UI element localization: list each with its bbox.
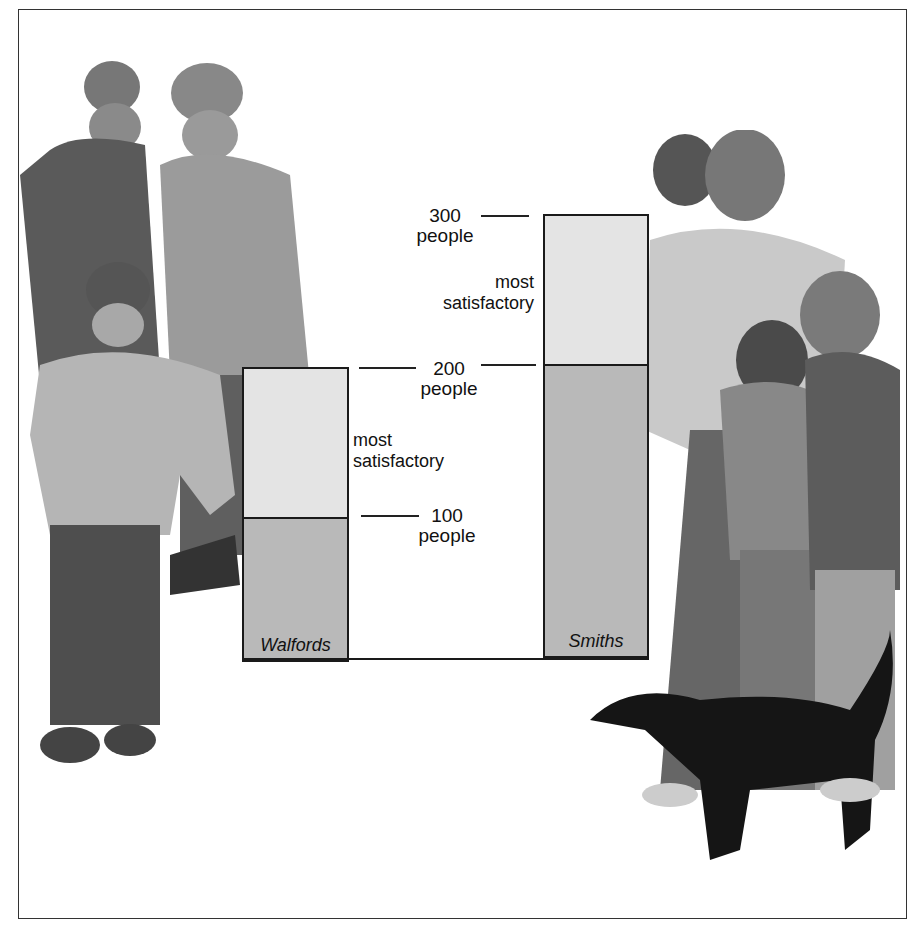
tick-label-100: 100 people [412, 506, 482, 546]
tick-line-300 [481, 215, 529, 217]
annotation-smiths-most-satisfactory: most satisfactory [412, 272, 534, 314]
tick-unit-100: people [412, 526, 482, 546]
smiths-most-satisfactory-segment [545, 216, 647, 364]
tick-line-100 [361, 515, 419, 517]
tick-label-300: 300 people [410, 206, 480, 246]
smiths-base-segment [545, 364, 647, 656]
chart-baseline [242, 658, 649, 660]
bar-walfords: Walfords [242, 367, 349, 662]
tick-label-200: 200 people [414, 359, 484, 399]
tick-line-200-left [359, 367, 416, 369]
tick-value-200: 200 [414, 359, 484, 379]
bar-smiths: Smiths [543, 214, 649, 658]
bar-label-smiths: Smiths [545, 631, 647, 652]
tick-value-300: 300 [410, 206, 480, 226]
annotation-walfords-most-satisfactory: most satisfactory [353, 430, 444, 472]
bar-label-walfords: Walfords [244, 635, 347, 656]
walfords-most-satisfactory-segment [244, 369, 347, 517]
tick-value-100: 100 [412, 506, 482, 526]
tick-unit-300: people [410, 226, 480, 246]
tick-unit-200: people [414, 379, 484, 399]
tick-line-200-right [481, 364, 536, 366]
